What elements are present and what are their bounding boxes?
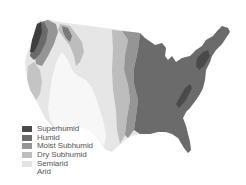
legend-item-arid: Arid <box>22 168 93 177</box>
legend-label: Arid <box>37 168 51 176</box>
legend-item-semiarid: Semiarid <box>22 159 93 168</box>
legend-swatch <box>22 152 32 158</box>
region-humid <box>134 26 230 153</box>
legend-swatch <box>22 161 32 167</box>
legend-swatch <box>22 169 32 175</box>
legend-swatch <box>22 135 32 141</box>
legend-swatch <box>22 126 32 132</box>
legend-label: Dry Subhumid <box>37 151 87 159</box>
legend: Superhumid Humid Moist Subhumid Dry Subh… <box>22 125 93 177</box>
legend-swatch <box>22 143 32 149</box>
